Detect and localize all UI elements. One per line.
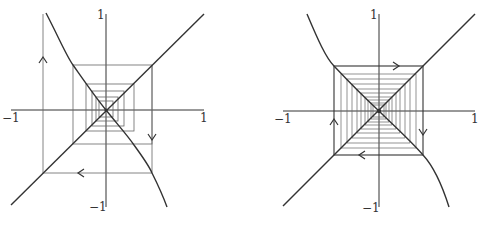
right-origin-dot: [377, 109, 381, 113]
left-label-ymax: 1: [97, 8, 105, 22]
left-panel: [11, 13, 204, 207]
right-panel: [283, 14, 475, 207]
diagram-canvas: −1 1 1 −1: [0, 0, 484, 227]
right-label-ymax: 1: [370, 8, 378, 22]
right-label-xmax: 1: [471, 112, 479, 126]
left-label-xmax: 1: [200, 111, 208, 125]
left-cobweb: [43, 14, 152, 173]
right-label-ymin: −1: [362, 201, 380, 215]
left-label-xmin: −1: [2, 111, 20, 125]
left-label-ymin: −1: [89, 200, 107, 214]
left-origin-dot: [104, 108, 107, 111]
right-label-xmin: −1: [274, 112, 292, 126]
